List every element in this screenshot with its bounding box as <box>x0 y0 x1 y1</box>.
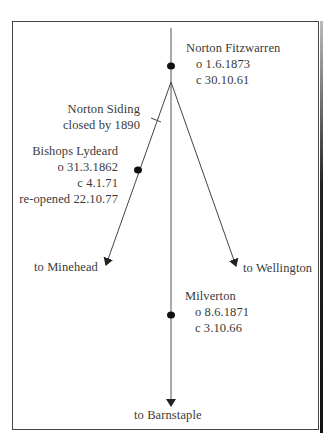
station-opened: o 8.6.1871 <box>185 304 249 320</box>
station-name: Norton Siding <box>63 101 140 117</box>
station-name: Norton Fitzwarren <box>186 40 280 56</box>
station-closed: c 3.10.66 <box>185 320 249 336</box>
station-closed: c 30.10.61 <box>186 72 280 88</box>
station-closed: c 4.1.71 <box>19 175 118 191</box>
station-label-norton-siding: Norton Siding closed by 1890 <box>63 101 140 133</box>
station-reopened: re-opened 22.10.77 <box>19 191 118 207</box>
station-label-norton-fitzwarren: Norton Fitzwarren o 1.6.1873 c 30.10.61 <box>186 40 280 88</box>
norton-siding-tick <box>151 118 161 122</box>
station-label-bishops-lydeard: Bishops Lydeard o 31.3.1862 c 4.1.71 re-… <box>19 143 118 207</box>
destination-wellington: to Wellington <box>243 260 312 276</box>
station-name: Milverton <box>185 288 249 304</box>
branch-line-wellington <box>171 82 236 266</box>
station-label-milverton: Milverton o 8.6.1871 c 3.10.66 <box>185 288 249 336</box>
station-dot-milverton <box>167 312 175 319</box>
station-opened: o 1.6.1873 <box>186 56 280 72</box>
destination-minehead: to Minehead <box>34 259 98 275</box>
station-dot-bishops-lydeard <box>134 167 142 174</box>
station-dot-norton-fitzwarren <box>167 63 175 70</box>
station-opened: o 31.3.1862 <box>19 159 118 175</box>
destination-barnstaple: to Barnstaple <box>134 407 202 423</box>
station-name: Bishops Lydeard <box>19 143 118 159</box>
station-closed: closed by 1890 <box>63 117 140 133</box>
